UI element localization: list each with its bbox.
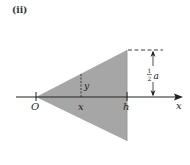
half-numerator: 1 bbox=[148, 67, 152, 74]
h-label: h bbox=[123, 101, 129, 112]
a-label: a bbox=[154, 71, 159, 81]
half-denominator: 2 bbox=[148, 75, 152, 82]
origin-label: O bbox=[31, 101, 39, 112]
x-axis-label: x bbox=[176, 100, 182, 111]
x-marker-label: x bbox=[78, 101, 84, 112]
shaded-triangle bbox=[36, 50, 127, 141]
triangle-diagram: (ii) y O x h x 1 2 a bbox=[0, 0, 190, 165]
panel-label: (ii) bbox=[12, 5, 27, 15]
y-label: y bbox=[83, 81, 90, 91]
